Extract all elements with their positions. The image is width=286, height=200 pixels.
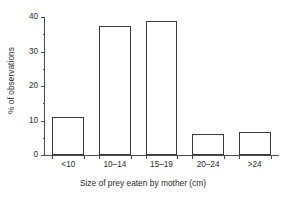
x-axis-line: [44, 155, 279, 156]
x-tick-mark: [271, 155, 272, 159]
bar: [239, 132, 271, 155]
x-tick-mark: [177, 155, 178, 159]
x-tick-label: >24: [248, 161, 262, 169]
bar: [192, 134, 224, 155]
x-tick-mark: [84, 155, 85, 159]
bar: [146, 21, 178, 155]
x-tick-mark: [224, 155, 225, 159]
x-tick-mark: [239, 155, 240, 159]
x-tick-label: 10–14: [104, 161, 127, 169]
y-tick-label: 20: [29, 82, 38, 90]
y-tick-mark: [41, 121, 45, 122]
y-tick-label: 0: [33, 151, 38, 159]
y-minor-tick-mark: [43, 138, 46, 139]
y-tick-mark: [41, 52, 45, 53]
y-axis-title-text: % of observations: [7, 47, 16, 114]
bar: [52, 117, 84, 155]
plot-area: 010203040: [45, 17, 278, 155]
x-tick-mark: [131, 155, 132, 159]
y-axis-title: % of observations: [2, 0, 20, 160]
x-tick-label: <10: [61, 161, 75, 169]
y-minor-tick-mark: [43, 69, 46, 70]
x-tick-mark: [146, 155, 147, 159]
y-tick-label: 40: [29, 13, 38, 21]
x-tick-label: 20–24: [197, 161, 220, 169]
x-axis-title: Size of prey eaten by mother (cm): [0, 178, 286, 188]
y-minor-tick-mark: [43, 34, 46, 35]
y-tick-mark: [41, 86, 45, 87]
y-tick-label: 30: [29, 47, 38, 55]
y-minor-tick-mark: [43, 103, 46, 104]
y-tick-label: 10: [29, 116, 38, 124]
bar-chart: % of observations 010203040 Size of prey…: [0, 0, 286, 200]
y-tick-mark: [41, 17, 45, 18]
y-tick-mark: [41, 155, 45, 156]
x-tick-mark: [99, 155, 100, 159]
x-tick-mark: [192, 155, 193, 159]
x-tick-label: 15–19: [150, 161, 173, 169]
bar: [99, 26, 131, 155]
x-tick-mark: [52, 155, 53, 159]
